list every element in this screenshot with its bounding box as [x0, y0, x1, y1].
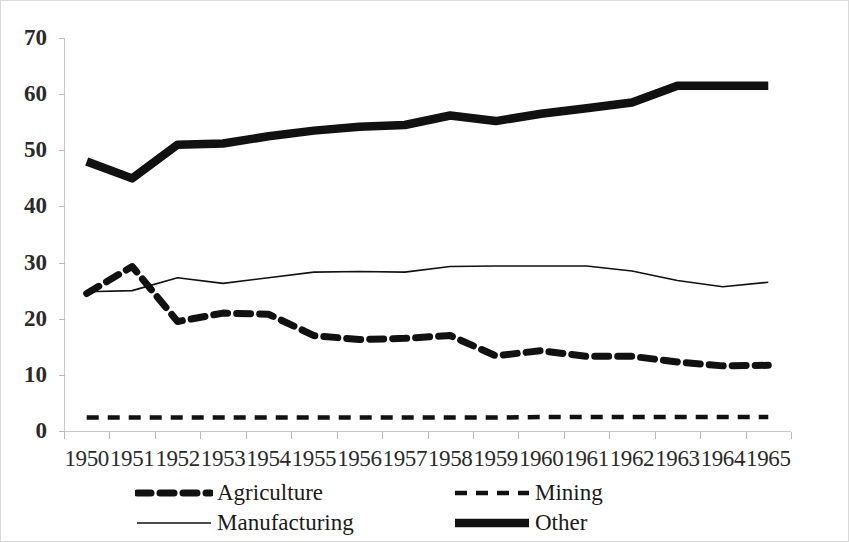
x-tick-mark [700, 432, 701, 439]
x-tick-label: 1958 [428, 444, 473, 474]
x-tick-label: 1951 [109, 444, 154, 474]
x-tick-label: 1950 [64, 444, 109, 474]
x-tick-label: 1953 [200, 444, 245, 474]
x-tick-mark [64, 432, 65, 439]
y-tick-label: 60 [24, 82, 47, 105]
x-tick-label: 1957 [382, 444, 427, 474]
y-tick-mark [59, 38, 65, 39]
y-tick-label: 70 [24, 26, 47, 49]
x-tick-mark [337, 432, 338, 439]
legend-swatch-other-icon [453, 514, 531, 532]
x-tick-mark [246, 432, 247, 439]
legend-item-other[interactable]: Other [453, 511, 587, 534]
y-tick-label: 20 [24, 307, 47, 330]
x-tick-mark [518, 432, 519, 439]
legend-item-mining[interactable]: Mining [453, 481, 603, 504]
x-tick-label: 1960 [518, 444, 563, 474]
legend-label: Agriculture [217, 481, 323, 504]
legend-label: Manufacturing [217, 511, 354, 534]
legend-item-agriculture[interactable]: Agriculture [135, 481, 323, 504]
legend-swatch-agriculture-icon [135, 484, 213, 502]
x-tick-label: 1954 [246, 444, 291, 474]
series-line-mining [87, 417, 769, 418]
x-tick-mark [746, 432, 747, 439]
x-axis-labels: 1950195119521953195419551956195719581959… [1, 444, 849, 478]
x-tick-mark [473, 432, 474, 439]
x-tick-label: 1956 [337, 444, 382, 474]
legend-label: Other [535, 511, 587, 534]
y-tick-mark [59, 263, 65, 264]
legend-swatch-mining-icon [453, 484, 531, 502]
series-line-manufacturing [87, 266, 769, 292]
legend-item-manufacturing[interactable]: Manufacturing [135, 511, 354, 534]
x-tick-mark [655, 432, 656, 439]
y-tick-mark [59, 206, 65, 207]
x-tick-label: 1963 [655, 444, 700, 474]
x-tick-mark [155, 432, 156, 439]
legend-swatch-manufacturing-icon [135, 514, 213, 532]
y-tick-label: 40 [24, 194, 47, 217]
plot-area [64, 38, 791, 431]
legend-label: Mining [535, 481, 603, 504]
series-lines [64, 38, 791, 431]
x-tick-mark [109, 432, 110, 439]
x-tick-label: 1952 [155, 444, 200, 474]
x-tick-label: 1965 [746, 444, 791, 474]
series-line-agriculture [87, 267, 769, 366]
x-tick-label: 1959 [473, 444, 518, 474]
x-tick-mark [291, 432, 292, 439]
y-tick-mark [59, 375, 65, 376]
y-tick-mark [59, 431, 65, 432]
x-tick-mark [200, 432, 201, 439]
x-tick-mark [791, 432, 792, 439]
chart-legend: AgricultureMiningManufacturingOther [1, 481, 849, 542]
x-tick-label: 1964 [700, 444, 745, 474]
x-tick-label: 1962 [609, 444, 654, 474]
y-tick-mark [59, 319, 65, 320]
x-tick-mark [609, 432, 610, 439]
x-tick-mark [564, 432, 565, 439]
y-tick-mark [59, 150, 65, 151]
y-tick-label: 30 [24, 251, 47, 274]
x-tick-label: 1961 [564, 444, 609, 474]
x-tick-mark [428, 432, 429, 439]
y-tick-label: 0 [36, 419, 48, 442]
series-line-other [87, 86, 769, 179]
x-tick-label: 1955 [291, 444, 336, 474]
chart-container: 010203040506070 195019511952195319541955… [0, 0, 849, 542]
y-tick-mark [59, 94, 65, 95]
y-tick-label: 50 [24, 138, 47, 161]
y-tick-label: 10 [24, 363, 47, 386]
x-tick-mark [382, 432, 383, 439]
